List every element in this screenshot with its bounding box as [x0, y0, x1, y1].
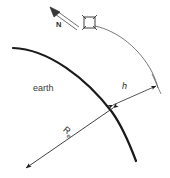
earth-surface-arc [13, 48, 136, 161]
earth-label: earth [33, 84, 54, 93]
satellite-icon [82, 15, 97, 30]
altitude-end-tick [152, 74, 161, 94]
diagram-canvas: earth h Re N [0, 0, 170, 178]
altitude-label: h [122, 82, 127, 91]
orbit-arc [95, 26, 158, 88]
altitude-dimension-arrow [113, 86, 156, 105]
diagram-svg [0, 0, 170, 178]
north-label: N [56, 21, 61, 29]
north-arrow-icon [50, 7, 79, 30]
